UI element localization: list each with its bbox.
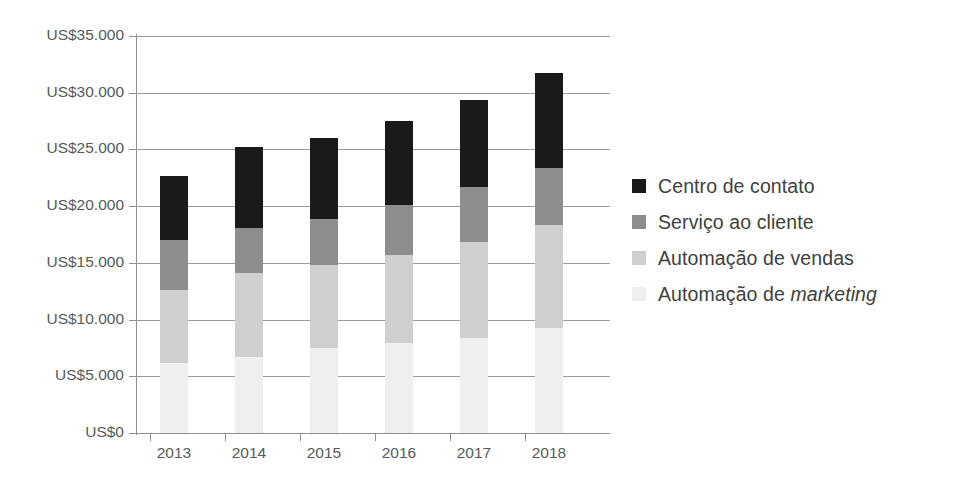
x-axis-tick-label: 2018 <box>514 444 584 462</box>
y-axis-tick-label: US$10.000 <box>0 310 124 328</box>
bar-segment[interactable] <box>535 328 563 433</box>
legend-item[interactable]: Centro de contato <box>632 168 952 204</box>
legend-item-label: Centro de contato <box>658 175 815 198</box>
bar-2013[interactable] <box>160 176 188 433</box>
bar-segment[interactable] <box>385 121 413 205</box>
legend-swatch-icon <box>632 179 646 193</box>
x-axis-tick <box>225 433 226 441</box>
bar-segment[interactable] <box>460 187 488 243</box>
legend-swatch-icon <box>632 251 646 265</box>
bar-segment[interactable] <box>235 273 263 357</box>
x-axis-tick <box>450 433 451 441</box>
bar-segment[interactable] <box>460 338 488 433</box>
x-axis-tick-label: 2016 <box>364 444 434 462</box>
bar-segment[interactable] <box>235 228 263 273</box>
bar-segment[interactable] <box>385 255 413 343</box>
y-axis-tick-label: US$0 <box>0 423 124 441</box>
legend-swatch-icon <box>632 287 646 301</box>
bar-segment[interactable] <box>160 176 188 241</box>
legend-swatch-icon <box>632 215 646 229</box>
bar-segment[interactable] <box>235 147 263 228</box>
bar-segment[interactable] <box>460 100 488 187</box>
x-axis-tick <box>150 433 151 441</box>
bar-segment[interactable] <box>535 225 563 327</box>
chart-legend: Centro de contatoServiço ao clienteAutom… <box>632 168 952 312</box>
bar-segment[interactable] <box>310 138 338 219</box>
y-axis-tick-label: US$35.000 <box>0 26 124 44</box>
bar-segment[interactable] <box>235 357 263 433</box>
bar-segment[interactable] <box>160 290 188 363</box>
bar-2017[interactable] <box>460 100 488 433</box>
bar-segment[interactable] <box>310 265 338 348</box>
bar-segment[interactable] <box>160 240 188 290</box>
bar-segment[interactable] <box>160 363 188 433</box>
y-axis-tick-label: US$30.000 <box>0 83 124 101</box>
bar-segment[interactable] <box>310 348 338 433</box>
bar-2014[interactable] <box>235 147 263 433</box>
bar-2015[interactable] <box>310 138 338 433</box>
plot-area <box>136 36 610 433</box>
x-axis-tick-label: 2017 <box>439 444 509 462</box>
stacked-bar-chart: US$0US$5.000US$10.000US$15.000US$20.000U… <box>0 0 957 486</box>
y-axis-tick-label: US$20.000 <box>0 196 124 214</box>
y-axis-tick-label: US$25.000 <box>0 139 124 157</box>
x-axis-tick <box>300 433 301 441</box>
bar-segment[interactable] <box>385 343 413 433</box>
legend-item-label: Serviço ao cliente <box>658 211 814 234</box>
bar-segment[interactable] <box>310 219 338 266</box>
bar-2016[interactable] <box>385 121 413 433</box>
bar-segment[interactable] <box>535 168 563 226</box>
x-axis-tick-label: 2014 <box>214 444 284 462</box>
x-axis-tick-label: 2013 <box>139 444 209 462</box>
x-axis-tick <box>525 433 526 441</box>
y-axis-tick-label: US$15.000 <box>0 253 124 271</box>
x-axis-tick <box>375 433 376 441</box>
bar-segment[interactable] <box>385 205 413 255</box>
legend-item-label-italic: marketing <box>790 283 877 305</box>
x-axis-tick-label: 2015 <box>289 444 359 462</box>
bar-2018[interactable] <box>535 73 563 433</box>
legend-item[interactable]: Automação de vendas <box>632 240 952 276</box>
legend-item-label: Automação de marketing <box>658 283 877 306</box>
bar-segment[interactable] <box>535 73 563 167</box>
gridline <box>136 433 610 434</box>
legend-item[interactable]: Serviço ao cliente <box>632 204 952 240</box>
legend-item[interactable]: Automação de marketing <box>632 276 952 312</box>
legend-item-label: Automação de vendas <box>658 247 854 270</box>
y-axis-tick-label: US$5.000 <box>0 366 124 384</box>
gridline <box>136 36 610 37</box>
bar-segment[interactable] <box>460 242 488 337</box>
